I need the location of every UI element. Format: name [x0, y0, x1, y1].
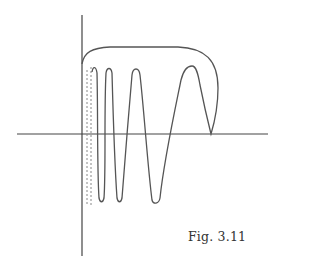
- oscillating-curve: [82, 47, 218, 203]
- figure-caption: Fig. 3.11: [188, 229, 246, 244]
